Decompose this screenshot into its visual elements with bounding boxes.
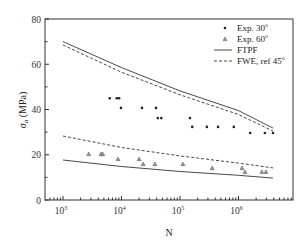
exp-60-point	[153, 162, 157, 166]
exp-60-point	[264, 170, 268, 174]
legend-item: FTPF	[214, 45, 258, 55]
exp-30-point	[272, 132, 275, 135]
exp-60-point	[243, 170, 247, 174]
svg-text:σa (MPa): σa (MPa)	[17, 92, 30, 129]
legend: Exp. 30oExp. 60oFTPFFWE, ref 45o	[214, 22, 285, 66]
legend-dot-icon	[224, 27, 227, 30]
exp-30-point	[120, 107, 123, 110]
exp-60-point	[137, 157, 141, 161]
x-tick-label: 103	[55, 205, 68, 216]
x-tick-label: 104	[113, 205, 126, 216]
exp-60-point	[181, 162, 185, 166]
legend-label: FWE, ref 45o	[237, 55, 285, 66]
exp-60-point	[141, 162, 145, 166]
legend-label: FTPF	[237, 45, 258, 55]
y-tick-label: 0	[36, 196, 41, 206]
exp-60-point	[240, 166, 244, 170]
exp-30-point	[115, 97, 118, 100]
exp-30-point	[156, 117, 159, 120]
exp-60-point	[87, 152, 91, 156]
y-tick-label: 80	[32, 15, 42, 25]
fatigue-chart: 020406080 103104105106 N σa (MPa) Exp. 3…	[0, 0, 307, 242]
exp-30-point	[160, 117, 163, 120]
x-axis-title: N	[165, 227, 172, 238]
y-tick-label: 20	[32, 150, 42, 160]
legend-item: FWE, ref 45o	[214, 55, 285, 66]
legend-triangle-icon	[223, 37, 227, 41]
experimental-points	[87, 97, 275, 174]
exp-30-point	[206, 126, 209, 129]
y-tick-label: 40	[32, 105, 42, 115]
legend-item: Exp. 60o	[223, 33, 268, 44]
exp-30-point	[189, 117, 192, 120]
exp-30-point	[191, 126, 194, 129]
exp-30-point	[217, 126, 220, 129]
y-axis: 020406080	[32, 15, 50, 206]
exp-30-point	[118, 97, 121, 100]
legend-label: Exp. 60o	[237, 33, 268, 44]
exp-60-point	[116, 157, 120, 161]
y-axis-unit: (MPa)	[17, 92, 29, 120]
exp-30-point	[249, 132, 252, 135]
legend-item: Exp. 30o	[224, 22, 268, 33]
exp-30-point	[108, 97, 111, 100]
legend-label: Exp. 30o	[237, 22, 268, 33]
x-tick-label: 105	[172, 205, 185, 216]
exp-60-point	[210, 166, 214, 170]
exp-60-point	[260, 170, 264, 174]
exp-30-point	[141, 107, 144, 110]
exp-30-point	[264, 132, 267, 135]
x-axis: 103104105106	[50, 196, 291, 216]
x-tick-label: 106	[230, 205, 243, 216]
exp-30-point	[155, 107, 158, 110]
exp-30-point	[233, 126, 236, 129]
y-axis-title: σa (MPa)	[17, 92, 30, 129]
y-tick-label: 60	[32, 60, 42, 70]
